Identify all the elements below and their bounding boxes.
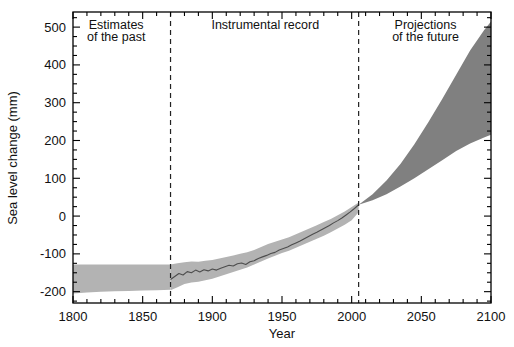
instrumental-uncertainty-area bbox=[171, 202, 359, 290]
plot-area bbox=[73, 12, 491, 303]
x-tick-label: 1950 bbox=[268, 309, 297, 324]
y-axis-tick-labels: -200-1000100200300400500 bbox=[40, 20, 66, 300]
instrumental-record-band bbox=[171, 202, 359, 290]
x-tick-label: 2100 bbox=[477, 309, 506, 324]
x-tick-label: 2050 bbox=[407, 309, 436, 324]
y-tick-label: -100 bbox=[40, 246, 66, 261]
projection-range-area bbox=[359, 21, 491, 204]
y-tick-label: 400 bbox=[44, 57, 66, 72]
past-estimates-area bbox=[73, 264, 171, 293]
y-axis-title: Sea level change (mm) bbox=[5, 91, 20, 225]
sea-level-change-chart: 1800185019001950200020502100 -200-100010… bbox=[0, 0, 514, 347]
estimates-of-the-past-label-line2: of the past bbox=[87, 30, 146, 44]
projections-of-the-future-label-line2: of the future bbox=[392, 30, 459, 44]
chart-canvas: 1800185019001950200020502100 -200-100010… bbox=[0, 0, 514, 347]
y-tick-label: -200 bbox=[40, 284, 66, 299]
panel-annotations: Estimatesof the pastInstrumental recordP… bbox=[87, 18, 459, 44]
x-tick-label: 1850 bbox=[128, 309, 157, 324]
projection-range-band bbox=[359, 21, 491, 204]
x-axis-title: Year bbox=[269, 326, 296, 341]
y-tick-label: 200 bbox=[44, 133, 66, 148]
past-estimates-band bbox=[73, 264, 171, 293]
x-tick-label: 2000 bbox=[337, 309, 366, 324]
y-tick-label: 300 bbox=[44, 95, 66, 110]
y-tick-label: 0 bbox=[59, 209, 66, 224]
y-tick-label: 500 bbox=[44, 20, 66, 35]
y-tick-label: 100 bbox=[44, 171, 66, 186]
x-tick-label: 1800 bbox=[59, 309, 88, 324]
x-tick-label: 1900 bbox=[198, 309, 227, 324]
x-axis-tick-labels: 1800185019001950200020502100 bbox=[59, 309, 506, 324]
instrumental-record-label: Instrumental record bbox=[211, 18, 319, 32]
